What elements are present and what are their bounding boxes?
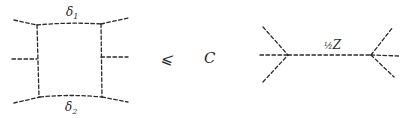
box-left-edge <box>37 25 39 97</box>
box-right-edge <box>101 24 102 97</box>
box-top-edge <box>37 23 101 25</box>
left-vertex-leg-down <box>263 55 288 82</box>
box-bottom-edge <box>40 96 102 98</box>
edge-label-half-z: ½Z <box>324 38 342 52</box>
leg-bottom-right <box>102 97 128 102</box>
leg-top-left <box>14 20 37 25</box>
right-vertex-leg-horizontal <box>371 55 399 56</box>
left-box-graph: δ1 δ2 <box>12 5 128 116</box>
less-or-equal-symbol: ⩽ <box>160 50 174 68</box>
right-vertex-leg-down <box>371 55 394 77</box>
right-vertex-leg-up <box>371 27 393 55</box>
left-vertex-leg-up <box>263 27 288 55</box>
label-delta-1: δ1 <box>66 5 78 21</box>
inequality-diagram: δ1 δ2 ⩽ C ½Z <box>0 0 411 118</box>
label-delta-2: δ2 <box>65 100 77 116</box>
leg-top-right <box>101 18 128 24</box>
leg-bottom-left <box>14 97 40 103</box>
constant-c: C <box>204 49 216 67</box>
right-two-vertex-graph: ½Z <box>260 27 399 82</box>
